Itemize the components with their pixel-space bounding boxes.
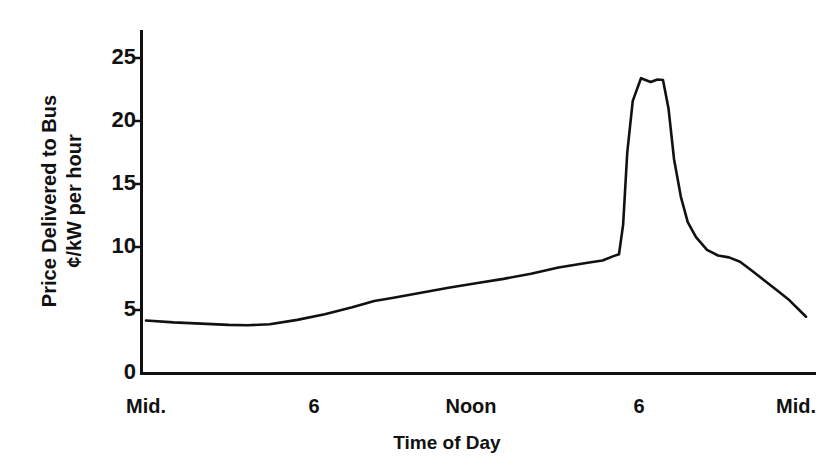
plot-area (0, 0, 840, 473)
y-axis-ticks (134, 58, 141, 310)
chart-figure: Price Delivered to Bus ¢/kW per hour 25 … (0, 0, 840, 473)
data-series-line (146, 78, 806, 325)
axis-lines (140, 30, 816, 374)
